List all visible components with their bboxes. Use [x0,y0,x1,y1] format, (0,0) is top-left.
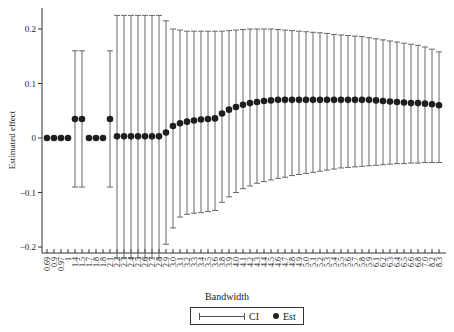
estimate-point [233,104,240,111]
estimate-point [128,133,135,140]
estimate-point [394,99,401,106]
y-tick-label: 0.1 [25,79,36,89]
estimate-point [219,110,226,117]
y-tick-label: −0.2 [20,242,36,252]
ci-legend-icon [199,316,245,317]
estimate-point [317,97,324,104]
estimate-point [149,133,156,140]
estimate-point [156,133,163,140]
legend: CI Est [190,307,304,325]
x-axis-title: Bandwidth [0,291,454,302]
estimate-point [93,135,100,142]
estimate-point [142,133,149,140]
estimate-point [296,97,303,104]
estimate-point [310,97,317,104]
estimate-point [345,97,352,104]
estimate-point [65,135,72,142]
ci-errorbars [72,15,442,258]
estimate-point [205,116,212,123]
estimate-point [324,97,331,104]
estimate-point [331,97,338,104]
y-tick-label: 0 [32,133,37,143]
y-tick-label: 0.2 [25,24,36,34]
estimate-point [177,120,184,127]
estimate-point [408,100,415,107]
estimate-point [72,116,79,123]
estimate-point [58,135,65,142]
estimate-point [380,98,387,105]
x-tick-labels: 0.690.90.9711.41.51.71.81.82.12.22.32.42… [43,257,444,271]
estimate-point [107,116,114,123]
estimate-point [429,101,436,108]
estimate-point [198,116,205,123]
estimate-point [212,115,219,122]
estimate-point [366,97,373,104]
estimate-point [261,98,268,105]
estimate-point [184,118,191,125]
y-axis-title: Estimated effect [7,110,17,169]
estimate-point [163,129,170,136]
estimate-point [79,116,86,123]
estimate-point [44,135,51,142]
x-tick-label: 8.3 [435,257,444,267]
estimate-point [436,102,443,109]
estimate-point [100,135,107,142]
estimate-point [191,117,198,124]
estimate-point [86,135,93,142]
estimate-point [373,97,380,104]
estimate-point [289,97,296,104]
estimate-point [268,97,275,104]
estimate-point [352,97,359,104]
estimate-point [387,98,394,105]
estimate-point [282,97,289,104]
estimate-point [240,101,247,108]
estimate-point [359,97,366,104]
estimate-point [254,99,261,106]
estimate-point [303,97,310,104]
chart-canvas: 0.20.10−0.1−0.2 0.690.90.9711.41.51.71.8… [0,0,454,332]
estimate-point [121,133,128,140]
y-tick-label: −0.1 [20,188,36,198]
legend-est-label: Est [283,311,296,322]
estimate-point [114,133,121,140]
legend-ci-label: CI [249,311,259,322]
estimate-point [135,133,142,140]
estimate-point [422,100,429,107]
estimate-point [401,99,408,106]
estimate-point [338,97,345,104]
estimate-point [51,135,58,142]
estimate-point [170,123,177,130]
est-legend-dot-icon [273,313,279,319]
axes: 0.20.10−0.1−0.2 [20,8,446,253]
estimate-point [275,97,282,104]
estimate-point [415,100,422,107]
estimate-point [226,106,233,113]
estimate-point [247,100,254,107]
